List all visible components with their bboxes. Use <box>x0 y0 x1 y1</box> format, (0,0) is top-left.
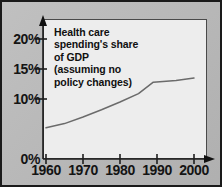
annotation-line-4: (assuming no <box>54 63 166 75</box>
x-tick-label-1960: 1960 <box>31 162 61 178</box>
x-axis-labels: 1960 1970 1980 1990 2000 <box>2 160 222 187</box>
y-tick-label-10: 10% <box>13 91 40 107</box>
annotation-line-2: spending's share <box>54 38 166 50</box>
chart-figure: 20% 15% 10% 0% 1960 1970 1980 1990 2000 … <box>0 0 222 187</box>
annotation-line-3: of GDP <box>54 51 166 63</box>
annotation-line-5: policy changes) <box>54 76 166 88</box>
annotation-line-1: Health care <box>54 26 166 38</box>
y-tick-label-15: 15% <box>13 61 40 77</box>
x-tick-label-2000: 2000 <box>179 162 209 178</box>
x-tick-label-1990: 1990 <box>142 162 172 178</box>
chart-annotation: Health care spending's share of GDP (ass… <box>54 26 166 88</box>
y-axis <box>39 15 47 159</box>
y-tick-label-20: 20% <box>13 31 40 47</box>
x-tick-label-1980: 1980 <box>105 162 135 178</box>
x-tick-label-1970: 1970 <box>68 162 98 178</box>
